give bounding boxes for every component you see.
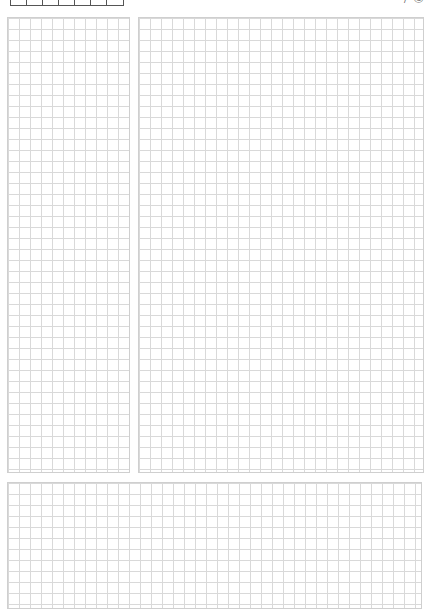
- date-cell: [107, 0, 123, 5]
- date-cell: [75, 0, 91, 5]
- grid-panel-bottom: [7, 482, 422, 609]
- date-cell: [43, 0, 59, 5]
- date-entry-cells: [10, 0, 124, 6]
- grid-panel-right: [138, 17, 424, 473]
- date-cell: [11, 0, 27, 5]
- date-cell: [59, 0, 75, 5]
- grid-panel-left: [7, 17, 130, 473]
- date-cell: [27, 0, 43, 5]
- page-corner-label: / ©: [404, 0, 425, 7]
- date-cell: [91, 0, 107, 5]
